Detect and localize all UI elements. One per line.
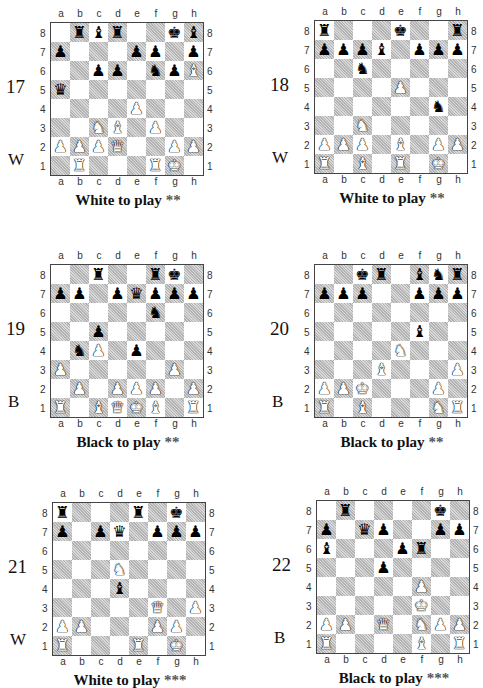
white-pawn-icon: ♟ (188, 598, 202, 617)
rank-label: 6 (207, 304, 213, 323)
square-c8: ♚ (353, 265, 372, 284)
difficulty-stars: ** (165, 434, 180, 450)
square-h8: ♜ (448, 265, 467, 284)
square-c7: ♟ (353, 284, 372, 303)
square-e7 (393, 520, 412, 539)
square-b2: ♟ (70, 137, 89, 156)
rank-label: 6 (304, 60, 310, 79)
square-f3 (410, 360, 429, 379)
white-rook-icon: ♜ (450, 398, 464, 417)
square-f4: ♟ (412, 577, 431, 596)
square-f5 (412, 558, 431, 577)
white-pawn-icon: ♟ (53, 360, 67, 379)
white-pawn-icon: ♟ (433, 615, 447, 634)
file-label: h (185, 8, 204, 19)
white-pawn-icon: ♟ (186, 137, 200, 156)
square-d6 (372, 303, 391, 322)
file-label: g (430, 6, 449, 17)
rank-label: 1 (471, 155, 477, 174)
white-pawn-icon: ♟ (319, 615, 333, 634)
black-pawn-icon: ♟ (167, 284, 181, 303)
square-h1 (448, 154, 467, 173)
rank-label: 7 (473, 521, 479, 540)
square-c8 (355, 501, 374, 520)
square-d6 (374, 539, 393, 558)
file-label: c (90, 8, 109, 19)
to-play-label: White to play (339, 190, 426, 206)
black-pawn-icon: ♟ (129, 341, 143, 360)
black-rook-icon: ♜ (55, 503, 69, 522)
square-f5 (410, 78, 429, 97)
square-g6 (167, 541, 186, 560)
square-c5: ♟ (89, 322, 108, 341)
square-e2: ♟ (127, 379, 146, 398)
square-f4 (410, 97, 429, 116)
square-d8 (372, 21, 391, 40)
square-g1: ♚ (429, 154, 448, 173)
square-g2: ♟ (429, 379, 448, 398)
to-play-label: Black to play (76, 434, 160, 450)
square-a8 (51, 23, 70, 42)
white-pawn-icon: ♟ (414, 577, 428, 596)
black-pawn-icon: ♟ (431, 284, 445, 303)
black-rook-icon: ♜ (131, 503, 145, 522)
rank-label: 8 (40, 266, 46, 285)
file-label: e (128, 8, 147, 19)
file-label: a (316, 6, 335, 17)
square-b7 (336, 520, 355, 539)
file-labels-top: abcdefgh (316, 250, 468, 261)
square-a6 (53, 541, 72, 560)
file-label: d (109, 8, 128, 19)
square-f5 (148, 560, 167, 579)
square-h2: ♟ (450, 615, 469, 634)
square-c3: ♞ (353, 116, 372, 135)
square-h3 (448, 116, 467, 135)
black-rook-icon: ♜ (148, 265, 162, 284)
file-label: h (185, 176, 204, 187)
black-knight-icon: ♞ (431, 97, 445, 116)
square-d5: ♞ (110, 560, 129, 579)
file-label: a (318, 486, 337, 497)
square-d6 (110, 541, 129, 560)
square-c2: ♟ (89, 137, 108, 156)
black-pawn-icon: ♟ (452, 520, 466, 539)
file-labels-top: abcdefgh (54, 488, 206, 499)
difficulty-stars: ** (166, 192, 181, 208)
rank-labels-left: 87654321 (304, 266, 310, 418)
square-h6 (184, 303, 203, 322)
file-label: b (335, 6, 354, 17)
white-rook-icon: ♜ (186, 398, 200, 417)
square-a2: ♟ (53, 617, 72, 636)
square-b1 (334, 398, 353, 417)
square-c6 (355, 539, 374, 558)
square-g4 (165, 341, 184, 360)
square-e8 (127, 23, 146, 42)
black-knight-icon: ♞ (148, 303, 162, 322)
square-c3 (353, 360, 372, 379)
square-g1 (431, 634, 450, 653)
file-label: b (71, 8, 90, 19)
square-e6: ♟ (393, 539, 412, 558)
file-label: e (128, 250, 147, 261)
square-c2 (91, 617, 110, 636)
black-bishop-icon: ♝ (412, 265, 426, 284)
square-a3 (51, 118, 70, 137)
square-f1: ♝ (146, 398, 165, 417)
square-e8: ♚ (391, 21, 410, 40)
rank-label: 3 (304, 117, 310, 136)
rank-label: 5 (207, 81, 213, 100)
square-e5 (393, 558, 412, 577)
square-f6: ♞ (146, 303, 165, 322)
square-f6 (410, 59, 429, 78)
square-h1: ♜ (450, 634, 469, 653)
square-g8: ♚ (165, 265, 184, 284)
file-label: e (394, 486, 413, 497)
black-pawn-icon: ♟ (148, 42, 162, 61)
puzzle-diagram-19: 19Babcdefghabcdefgh8765432187654321♜♜♚♟♟… (0, 230, 238, 459)
black-knight-icon: ♞ (355, 59, 369, 78)
black-knight-icon: ♞ (148, 61, 162, 80)
square-e3 (127, 118, 146, 137)
white-pawn-icon: ♟ (393, 78, 407, 97)
square-d1 (108, 156, 127, 175)
square-d5 (108, 80, 127, 99)
